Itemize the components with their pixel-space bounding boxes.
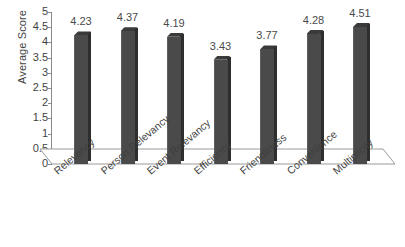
y-tick-label: 4.5 [18,21,48,32]
y-tick-label: 0.5 [18,143,48,154]
bar-value-label: 4.51 [340,8,380,19]
bar-value-label: 3.43 [201,41,241,52]
y-tick-label: 1.5 [18,112,48,123]
y-tick-label: 2 [18,97,48,108]
y-tick-label: 3.5 [18,52,48,63]
bar-value-label: 3.77 [247,30,287,41]
bar-value-label: 4.37 [108,12,148,23]
y-tick-label: 2.5 [18,82,48,93]
y-tick-label: 1 [18,128,48,139]
y-tick-label: 4 [18,36,48,47]
y-tick-label: 5 [18,6,48,17]
y-tick-mark [48,164,52,165]
y-axis-tick-labels: 00.511.522.533.544.55 [18,0,48,175]
y-tick-label: 3 [18,67,48,78]
bar-chart: Average Score 00.511.522.533.544.55 4.23… [0,0,405,247]
x-axis-category-labels: RelevancyPerson RelevancyEvent Relevancy… [0,168,405,247]
bar-value-label: 4.23 [61,16,101,27]
bar-value-label: 4.19 [154,18,194,29]
bar-value-label: 4.28 [294,15,334,26]
